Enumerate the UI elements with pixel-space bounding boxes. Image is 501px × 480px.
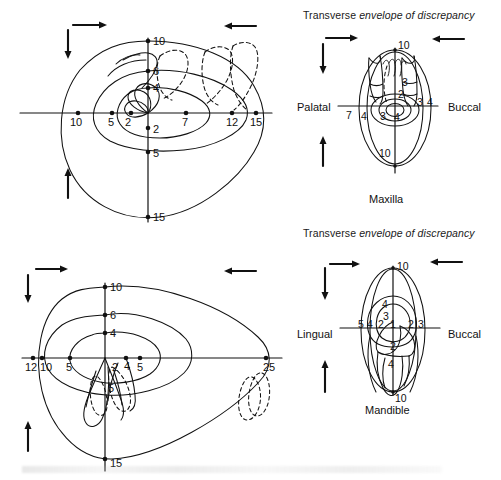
label-tl-up-6: 6: [153, 65, 159, 77]
label-tl-left-5: 5: [108, 116, 114, 128]
tick-dots: [31, 285, 269, 462]
label-tl-up-10: 10: [153, 35, 165, 47]
label-br-row-3: 3: [418, 318, 424, 330]
label-br-row-1: 1: [390, 318, 396, 330]
arrow-left-top: [224, 268, 256, 275]
label-bl-right-5: 5: [137, 361, 143, 373]
footer-caption-partial: [22, 466, 442, 473]
label-buccal-maxilla: Buccal: [448, 101, 481, 113]
label-tl-down-5: 5: [153, 147, 159, 159]
label-bl-up-10: 10: [110, 281, 122, 293]
header-italic-part-2: envelope of discrepancy: [359, 227, 475, 239]
caption-mandible: Mandible: [365, 404, 410, 416]
envelope-surgery: [61, 41, 264, 218]
label-tr-left-3: 3: [380, 110, 386, 122]
header-mandible-transverse: Transverse envelope of discrepancy: [303, 227, 475, 239]
arrow-right-top: [330, 261, 360, 268]
lower-curve-right: [410, 336, 418, 392]
label-br-row-2: 2: [378, 318, 384, 330]
arrow-up-bottom: [65, 168, 72, 198]
label-br-down-10: 10: [395, 392, 407, 404]
label-tr-left-7: 7: [346, 109, 352, 121]
arrow-left-top: [224, 23, 256, 30]
label-tr-up-10: 10: [398, 39, 410, 51]
axis-value-labels: 10 6 4 5 15 12 10 5 2 4 5 25: [25, 281, 275, 469]
arrow-left-top: [432, 36, 464, 43]
label-tr-inner-2: 2: [398, 88, 404, 100]
label-bl-left-5: 5: [66, 361, 72, 373]
arrow-up-bottom: [25, 421, 32, 451]
arrow-down-top: [65, 30, 72, 59]
label-br-down-2: 2: [390, 340, 396, 352]
arrow-up-bottom: [322, 360, 329, 392]
label-bl-right-2: 2: [112, 361, 118, 373]
maxilla-transverse-chart: 10 10 7 4 3 3 4 2 3 4: [290, 18, 501, 218]
dashed-tooth-group: [157, 42, 258, 110]
label-tl-down-15: 15: [153, 211, 165, 223]
label-tl-right-15: 15: [250, 116, 262, 128]
label-palatal: Palatal: [297, 101, 331, 113]
label-bl-right-4: 4: [124, 360, 130, 372]
arrow-down-top: [25, 275, 32, 303]
arrow-down-top: [320, 44, 327, 74]
arrow-left-top: [430, 259, 462, 266]
label-br-up-4: 4: [382, 298, 388, 310]
label-tl-down-2: 2: [153, 123, 159, 135]
panel-mandibular-sagittal: 10 6 4 5 15 12 10 5 2 4 5 25: [0, 245, 290, 480]
envelope-growth: [93, 70, 247, 151]
label-br-row-5: 5: [358, 318, 364, 330]
maxillary-sagittal-chart: 10 6 4 2 5 15 10 5 2 7 12 15: [0, 0, 290, 230]
label-tl-up-4: 4: [153, 82, 159, 94]
label-lingual: Lingual: [297, 328, 332, 340]
label-br-down-4: 4: [388, 358, 394, 370]
label-bl-down-5: 5: [108, 382, 114, 394]
label-bl-right-25: 25: [263, 361, 275, 373]
label-tr-down-10: 10: [379, 147, 391, 159]
dashed-midline: [384, 66, 387, 104]
label-bl-up-6: 6: [110, 309, 116, 321]
label-tl-right-12: 12: [226, 116, 238, 128]
envelope-surgery: [39, 286, 270, 459]
tooth-arc-left: [108, 60, 146, 76]
panel-maxillary-sagittal: 10 6 4 2 5 15 10 5 2 7 12 15: [0, 0, 290, 230]
tooth-silhouettes: [369, 56, 417, 106]
label-br-up-10: 10: [397, 260, 409, 272]
label-tl-left-2: 2: [125, 116, 131, 128]
label-tr-left-4: 4: [361, 110, 367, 122]
label-buccal-mandible: Buccal: [448, 328, 481, 340]
label-tl-right-7: 7: [182, 116, 188, 128]
caption-maxilla: Maxilla: [369, 193, 403, 205]
label-bl-left-10: 10: [40, 361, 52, 373]
label-bl-up-4: 4: [110, 327, 116, 339]
arrow-right-top: [326, 35, 358, 42]
label-tl-left-10: 10: [70, 116, 82, 128]
label-br-row-4: 4: [367, 318, 373, 330]
lower-curve-left: [368, 336, 376, 392]
arrow-up-bottom: [320, 136, 327, 166]
label-tr-right-3: 3: [417, 96, 423, 108]
mandibular-sagittal-chart: 10 6 4 5 15 12 10 5 2 4 5 25: [0, 245, 290, 480]
label-br-up-3: 3: [383, 310, 389, 322]
label-br-row-2b: 2: [408, 318, 414, 330]
arrow-right-top: [73, 22, 107, 29]
arrow-right-top: [36, 266, 68, 273]
label-tr-right-4: 4: [427, 96, 433, 108]
arrow-down-top: [322, 268, 329, 300]
label-tr-inner-3: 3: [402, 76, 408, 88]
axis-value-labels: 10 6 4 2 5 15 10 5 2 7 12 15: [70, 35, 262, 223]
header-plain-part-2: Transverse: [303, 227, 359, 239]
label-bl-left-12: 12: [25, 361, 37, 373]
tick-dots: [76, 39, 259, 220]
label-tr-inner-4: 4: [394, 111, 400, 123]
panel-maxilla-transverse: 10 10 7 4 3 3 4 2 3 4: [290, 18, 501, 218]
